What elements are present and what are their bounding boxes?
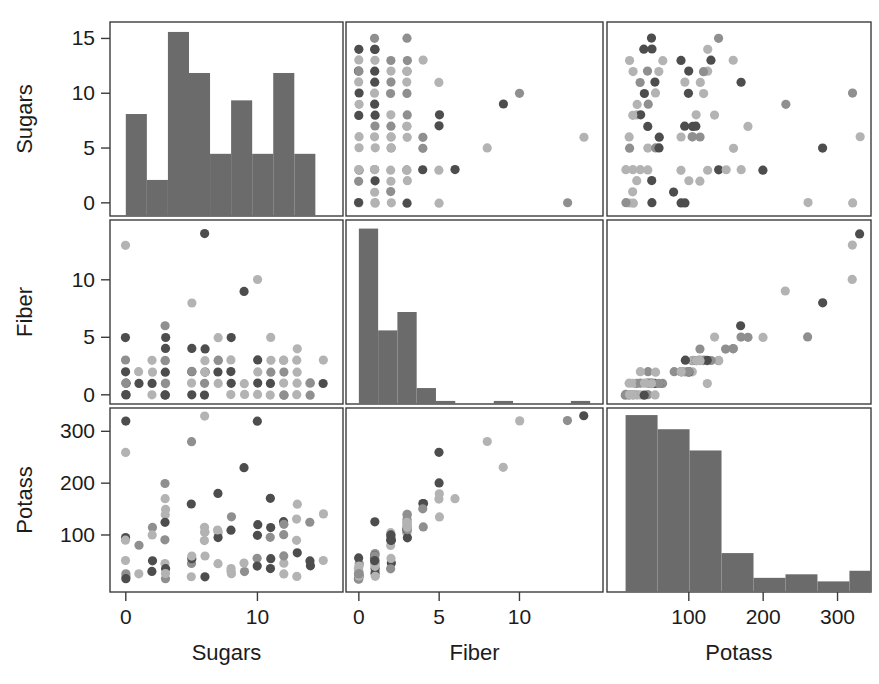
scatter-point bbox=[643, 122, 652, 131]
scatter-point bbox=[386, 89, 395, 98]
scatter-point bbox=[160, 518, 169, 527]
scatter-point bbox=[161, 333, 170, 342]
histogram-bar bbox=[658, 429, 690, 592]
scatter-point bbox=[292, 390, 301, 399]
x-tick-label-fiber: 10 bbox=[508, 605, 531, 628]
scatter-point bbox=[434, 166, 443, 175]
scatter-point bbox=[386, 564, 395, 573]
scatter-point bbox=[677, 367, 686, 376]
scatter-point bbox=[200, 536, 209, 545]
scatter-point bbox=[161, 344, 170, 353]
scatter-point bbox=[293, 500, 302, 509]
scatter-point bbox=[354, 165, 363, 174]
scatter-point bbox=[305, 518, 314, 527]
scatter-point bbox=[676, 166, 685, 175]
scatter-point bbox=[714, 34, 723, 43]
scatter-point bbox=[370, 34, 379, 43]
scatter-point bbox=[435, 512, 444, 521]
scatter-point bbox=[402, 78, 411, 87]
scatter-point bbox=[736, 321, 745, 330]
scatter-point bbox=[647, 176, 656, 185]
scatter-point bbox=[722, 165, 731, 174]
histogram-bar bbox=[397, 312, 416, 404]
y-tick-label-sugars: 15 bbox=[72, 26, 95, 49]
scatter-point bbox=[147, 356, 156, 365]
scatter-point bbox=[703, 379, 712, 388]
scatter-point bbox=[386, 56, 395, 65]
scatter-point bbox=[134, 379, 143, 388]
scatter-point bbox=[434, 448, 443, 457]
histogram-bar bbox=[210, 154, 231, 216]
scatter-point bbox=[253, 355, 262, 364]
scatter-point bbox=[655, 133, 664, 142]
scatter-point bbox=[625, 56, 634, 65]
scatter-point bbox=[743, 122, 752, 131]
scatter-point bbox=[160, 390, 169, 399]
scatter-point bbox=[563, 198, 572, 207]
x-axis-fiber bbox=[359, 592, 520, 601]
scatter-point bbox=[200, 368, 209, 377]
scatter-point bbox=[161, 505, 170, 514]
scatter-point bbox=[370, 165, 379, 174]
scatter-point bbox=[226, 355, 235, 364]
scatter-point bbox=[161, 569, 170, 578]
y-axis-sugars bbox=[101, 38, 110, 202]
scatter-point bbox=[306, 391, 315, 400]
row-axis-label-sugars: Sugars bbox=[12, 84, 37, 154]
scatter-point bbox=[200, 379, 209, 388]
panel-sugars-vs-fiber bbox=[346, 22, 603, 216]
scatter-point bbox=[654, 67, 663, 76]
scatter-point bbox=[371, 572, 380, 581]
scatter-point bbox=[621, 198, 630, 207]
scatter-point bbox=[636, 110, 645, 119]
scatter-point bbox=[370, 132, 379, 141]
scatter-point bbox=[160, 535, 169, 544]
scatter-point bbox=[736, 78, 745, 87]
scatter-point bbox=[403, 176, 412, 185]
scatter-point bbox=[187, 378, 196, 387]
scatter-point bbox=[292, 536, 301, 545]
histogram-bar bbox=[126, 114, 147, 216]
scatter-point bbox=[253, 367, 262, 376]
scatter-point bbox=[240, 379, 249, 388]
scatter-point bbox=[354, 198, 363, 207]
scatter-point bbox=[147, 379, 156, 388]
scatter-point bbox=[370, 100, 379, 109]
scatter-point bbox=[253, 417, 262, 426]
scatter-point bbox=[402, 166, 411, 175]
scatter-point bbox=[625, 144, 634, 153]
scatter-point bbox=[643, 143, 652, 152]
y-tick-label-potass: 200 bbox=[60, 471, 95, 494]
scatter-point bbox=[651, 368, 660, 377]
scatter-point bbox=[121, 536, 130, 545]
x-tick-label-potass: 100 bbox=[671, 605, 706, 628]
panel-fiber-vs-potass bbox=[607, 220, 871, 404]
x-tick-label-sugars: 10 bbox=[246, 605, 269, 628]
scatter-point bbox=[161, 368, 170, 377]
histogram-bar bbox=[754, 578, 786, 592]
scatter-point bbox=[387, 198, 396, 207]
scatter-point bbox=[371, 111, 380, 120]
scatter-point bbox=[226, 367, 235, 376]
scatter-point bbox=[386, 77, 395, 86]
histogram-bar bbox=[785, 574, 817, 592]
scatter-point bbox=[402, 199, 411, 208]
scatter-point bbox=[696, 356, 705, 365]
scatter-point bbox=[354, 111, 363, 120]
y-axis-fiber bbox=[101, 280, 110, 395]
scatter-point bbox=[354, 100, 363, 109]
y-tick-label-fiber: 5 bbox=[83, 325, 95, 348]
scatter-point bbox=[121, 333, 130, 342]
scatter-point bbox=[253, 561, 262, 570]
scatter-point bbox=[214, 333, 223, 342]
scatter-point bbox=[214, 379, 223, 388]
scatter-point bbox=[515, 416, 524, 425]
scatter-point bbox=[386, 166, 395, 175]
scatter-point bbox=[213, 559, 222, 568]
scatter-point bbox=[387, 536, 396, 545]
scatter-point bbox=[279, 367, 288, 376]
scatter-point bbox=[121, 556, 130, 565]
scatter-point bbox=[240, 390, 249, 399]
scatter-point bbox=[292, 515, 301, 524]
scatter-point bbox=[703, 45, 712, 54]
